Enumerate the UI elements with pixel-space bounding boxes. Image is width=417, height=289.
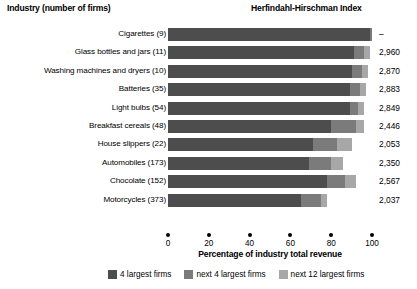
hhi-value: 2,960 (379, 47, 400, 57)
bar-row-label: Breakfast cereals (48) (89, 121, 166, 130)
hhi-value: – (379, 29, 384, 39)
bar-row: Chocolate (152)2,567 (0, 173, 417, 191)
bar-row: Washing machines and dryers (10)2,870 (0, 63, 417, 81)
hhi-value: 2,446 (379, 121, 400, 131)
bar-segment (168, 120, 331, 133)
bar-row-label: Batteries (35) (119, 84, 166, 93)
bar-segment (337, 138, 351, 151)
axis-tick-dot (166, 233, 170, 237)
bar-segment (345, 175, 355, 188)
bar-segment (370, 28, 372, 41)
stacked-bar (168, 46, 370, 59)
axis-tick-label: 100 (365, 239, 379, 248)
bar-segment (327, 175, 345, 188)
axis-tick-label: 60 (286, 239, 295, 248)
x-axis-title: Percentage of industry total revenue (168, 249, 372, 259)
hhi-value: 2,870 (379, 66, 400, 76)
hhi-value: 2,053 (379, 139, 400, 149)
bar-rows: Cigarettes (9)–Glass bottles and jars (1… (0, 26, 417, 210)
bar-segment (168, 28, 370, 41)
legend: 4 largest firmsnext 4 largest firmsnext … (108, 270, 371, 279)
bar-row: Glass bottles and jars (11)2,960 (0, 44, 417, 62)
bar-segment (356, 120, 364, 133)
x-axis: 020406080100 (0, 212, 417, 246)
bar-row-label: Chocolate (152) (110, 176, 166, 185)
hhi-value: 2,849 (379, 103, 400, 113)
bar-row: Automobiles (173)2,350 (0, 155, 417, 173)
bar-segment (350, 102, 358, 115)
bar-segment (352, 65, 362, 78)
stacked-bar (168, 175, 356, 188)
bar-row: Breakfast cereals (48)2,446 (0, 118, 417, 136)
bar-row: Light bulbs (54)2,849 (0, 100, 417, 118)
bar-segment (168, 157, 309, 170)
axis-tick-label: 20 (204, 239, 213, 248)
bar-row-label: Automobiles (173) (102, 158, 166, 167)
hhi-concentration-chart: Industry (number of firms) Herfindahl-Hi… (0, 0, 417, 289)
legend-label: next 4 largest firms (196, 270, 265, 279)
industry-column-header: Industry (number of firms) (7, 3, 111, 13)
axis-tick-dot (207, 233, 211, 237)
axis-tick-dot (248, 233, 252, 237)
hhi-value: 2,037 (379, 195, 400, 205)
axis-tick-dot (288, 233, 292, 237)
bar-segment (168, 175, 327, 188)
stacked-bar (168, 120, 364, 133)
hhi-column-header: Herfindahl-Hirschman Index (251, 3, 362, 13)
bar-segment (168, 65, 352, 78)
axis-tick-label: 0 (166, 239, 171, 248)
bar-segment (362, 65, 368, 78)
bar-segment (354, 46, 364, 59)
legend-label: next 12 largest firms (291, 270, 365, 279)
bar-row-label: Motorcycles (373) (103, 195, 166, 204)
legend-swatch-icon (108, 270, 117, 279)
axis-tick-dot (370, 233, 374, 237)
bar-segment (168, 83, 350, 96)
bar-row: Batteries (35)2,883 (0, 81, 417, 99)
bar-row-label: Glass bottles and jars (11) (75, 47, 166, 56)
stacked-bar (168, 194, 327, 207)
stacked-bar (168, 28, 372, 41)
bar-row-label: Cigarettes (9) (118, 29, 166, 38)
legend-item: 4 largest firms (108, 270, 171, 279)
bar-row-label: House slippers (22) (98, 139, 166, 148)
bar-segment (331, 120, 355, 133)
bar-segment (309, 157, 331, 170)
bar-row: Motorcycles (373)2,037 (0, 192, 417, 210)
legend-item: next 4 largest firms (184, 270, 265, 279)
bar-row: House slippers (22)2,053 (0, 136, 417, 154)
legend-item: next 12 largest firms (279, 270, 365, 279)
bar-segment (358, 102, 364, 115)
stacked-bar (168, 157, 343, 170)
stacked-bar (168, 65, 368, 78)
bar-segment (168, 46, 354, 59)
bar-segment (350, 83, 360, 96)
bar-row: Cigarettes (9)– (0, 26, 417, 44)
bar-segment (168, 102, 350, 115)
axis-tick-label: 40 (245, 239, 254, 248)
legend-swatch-icon (279, 270, 288, 279)
legend-swatch-icon (184, 270, 193, 279)
hhi-value: 2,567 (379, 176, 400, 186)
bar-segment (321, 194, 327, 207)
bar-segment (168, 194, 301, 207)
bar-segment (364, 46, 370, 59)
bar-row-label: Light bulbs (54) (112, 103, 166, 112)
bar-row-label: Washing machines and dryers (10) (44, 66, 166, 75)
stacked-bar (168, 102, 364, 115)
bar-segment (331, 157, 343, 170)
bar-segment (168, 138, 313, 151)
bar-segment (301, 194, 321, 207)
bar-segment (360, 83, 366, 96)
bar-segment (313, 138, 337, 151)
stacked-bar (168, 138, 352, 151)
axis-tick-dot (329, 233, 333, 237)
stacked-bar (168, 83, 366, 96)
hhi-value: 2,350 (379, 158, 400, 168)
hhi-value: 2,883 (379, 84, 400, 94)
legend-label: 4 largest firms (120, 270, 171, 279)
axis-tick-label: 80 (327, 239, 336, 248)
